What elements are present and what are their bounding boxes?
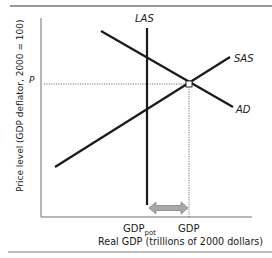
ad-label: AD: [235, 104, 251, 115]
sas-label: SAS: [234, 53, 254, 64]
gdp-label: GDP: [178, 223, 199, 234]
sas-curve: [55, 57, 230, 167]
las-label: LAS: [135, 13, 154, 24]
x-axis-label: Real GDP (trillions of 2000 dollars): [98, 236, 263, 247]
as-ad-diagram: LAS SAS AD P GDPpot GDP Real GDP (trilli…: [0, 0, 272, 258]
equilibrium-point: [186, 81, 192, 87]
output-gap-arrow-icon: [149, 202, 188, 214]
price-label: P: [29, 75, 35, 85]
gdp-pot-label: GDPpot: [123, 223, 156, 237]
y-axis-label: Price level (GDP deflator, 2000 = 100): [15, 19, 25, 192]
